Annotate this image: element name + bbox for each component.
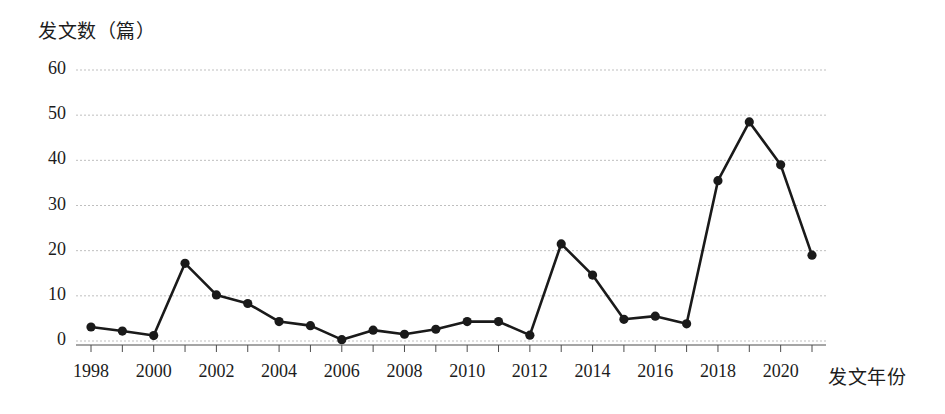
x-tick-label-2012: 2012 xyxy=(500,361,560,382)
data-point-2015 xyxy=(619,315,628,324)
data-point-1999 xyxy=(118,326,127,335)
x-tick-label-2008: 2008 xyxy=(374,361,434,382)
data-point-2016 xyxy=(651,312,660,321)
data-point-2008 xyxy=(400,330,409,339)
x-tick-label-2020: 2020 xyxy=(751,361,811,382)
y-tick-label-30: 30 xyxy=(26,194,66,215)
data-line-series xyxy=(91,122,812,340)
data-point-2000 xyxy=(149,331,158,340)
data-point-2004 xyxy=(274,317,283,326)
data-point-1998 xyxy=(86,322,95,331)
x-axis-ticks xyxy=(91,345,812,352)
data-point-2006 xyxy=(337,335,346,344)
data-point-2019 xyxy=(745,117,754,126)
data-point-2017 xyxy=(682,319,691,328)
data-point-2021 xyxy=(807,251,816,260)
y-tick-label-10: 10 xyxy=(26,284,66,305)
series-polyline xyxy=(91,122,812,340)
data-point-2002 xyxy=(212,290,221,299)
data-point-2001 xyxy=(180,259,189,268)
data-point-2012 xyxy=(525,331,534,340)
x-tick-label-2004: 2004 xyxy=(249,361,309,382)
x-tick-label-2010: 2010 xyxy=(437,361,497,382)
y-tick-label-50: 50 xyxy=(26,103,66,124)
data-point-2003 xyxy=(243,299,252,308)
data-point-2011 xyxy=(494,317,503,326)
x-tick-label-2006: 2006 xyxy=(312,361,372,382)
plot-canvas xyxy=(0,0,945,414)
data-point-2020 xyxy=(776,160,785,169)
x-tick-label-2002: 2002 xyxy=(186,361,246,382)
y-tick-label-60: 60 xyxy=(26,58,66,79)
data-point-2007 xyxy=(369,326,378,335)
y-tick-label-0: 0 xyxy=(26,329,66,350)
x-axis-line xyxy=(76,341,826,345)
y-tick-label-40: 40 xyxy=(26,148,66,169)
y-tick-label-20: 20 xyxy=(26,239,66,260)
line-chart: 发文数（篇） 发文年份 0102030405060 19982000200220… xyxy=(0,0,945,414)
x-tick-label-2000: 2000 xyxy=(124,361,184,382)
data-point-2010 xyxy=(463,317,472,326)
x-tick-label-2014: 2014 xyxy=(563,361,623,382)
x-tick-label-2018: 2018 xyxy=(688,361,748,382)
data-point-2014 xyxy=(588,270,597,279)
data-point-2018 xyxy=(713,176,722,185)
data-point-2009 xyxy=(431,325,440,334)
x-tick-label-2016: 2016 xyxy=(625,361,685,382)
x-tick-label-1998: 1998 xyxy=(61,361,121,382)
data-point-2005 xyxy=(306,321,315,330)
data-point-2013 xyxy=(557,239,566,248)
